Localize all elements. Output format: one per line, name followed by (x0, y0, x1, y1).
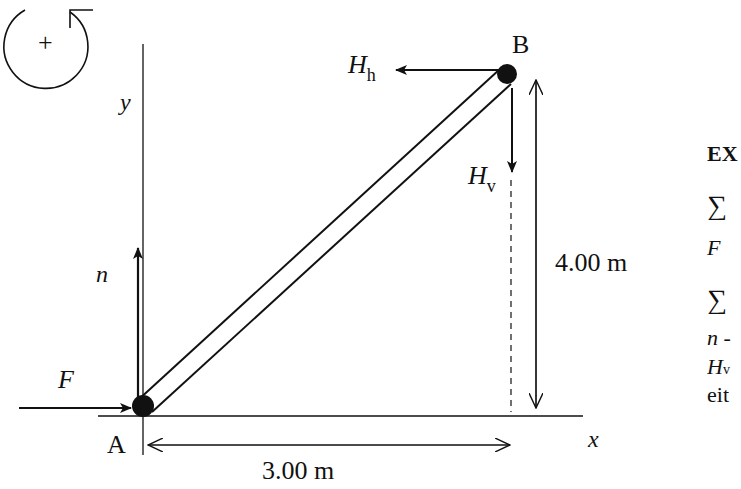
equation-1-text: F (707, 237, 741, 259)
rotation-plus-sign: + (38, 30, 53, 56)
normal-force-label: n (96, 262, 108, 286)
vertical-dimension-label: 4.00 m (555, 250, 638, 276)
vertical-hinge-force-label: Hv (468, 163, 496, 189)
y-axis-label: y (120, 90, 131, 114)
sum-symbol-1: ∑ (707, 192, 741, 220)
ladder (137, 69, 511, 412)
example-heading: EX (707, 143, 741, 165)
point-a-dot (132, 395, 154, 417)
point-b-label: B (512, 32, 529, 58)
friction-force-label: F (58, 367, 74, 393)
point-a-label: A (107, 432, 126, 458)
x-axis-label: x (588, 427, 599, 451)
point-b-dot (497, 64, 517, 84)
equation-2-line-1: n - (707, 327, 741, 349)
equation-2-line-2: Hv (707, 356, 741, 378)
equation-2-line-3: eit (707, 384, 741, 406)
sum-symbol-2: ∑ (707, 286, 741, 314)
horizontal-dimension-label: 3.00 m (262, 458, 334, 484)
horizontal-hinge-force-label: Hh (348, 52, 376, 78)
